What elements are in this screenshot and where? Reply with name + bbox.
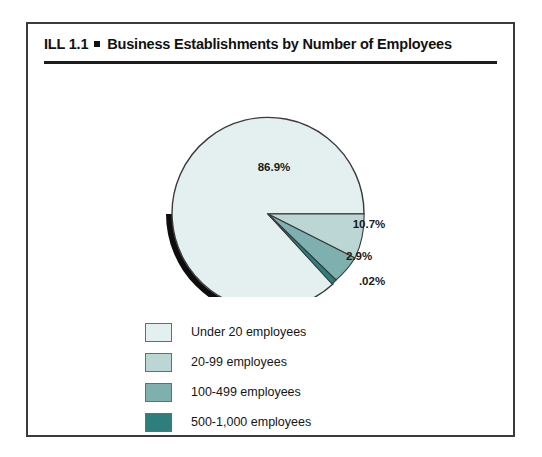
legend-swatch-icon xyxy=(145,353,172,372)
legend-item-100-499[interactable]: 100-499 employees xyxy=(145,379,311,405)
pie-chart: 86.9% 10.7% 2.9% .02% xyxy=(28,72,513,297)
figure-number: ILL 1.1 xyxy=(44,36,88,52)
legend-item-20-99[interactable]: 20-99 employees xyxy=(145,349,311,375)
legend-swatch-icon xyxy=(145,383,172,402)
pie-label-100-499: 2.9% xyxy=(346,250,372,262)
page-title: ILL 1.1Business Establishments by Number… xyxy=(44,34,497,54)
pie-label-20-99: 10.7% xyxy=(353,218,386,230)
legend-item-label: 500-1,000 employees xyxy=(191,415,311,429)
figure-title-block: ILL 1.1Business Establishments by Number… xyxy=(44,34,497,64)
legend-item-label: 20-99 employees xyxy=(191,355,287,369)
pie-chart-svg: 86.9% 10.7% 2.9% .02% xyxy=(28,72,513,297)
legend-item-under-20[interactable]: Under 20 employees xyxy=(145,319,311,345)
legend-item-label: 100-499 employees xyxy=(191,385,301,399)
legend-item-label: Under 20 employees xyxy=(191,325,306,339)
figure-frame: ILL 1.1Business Establishments by Number… xyxy=(26,22,515,437)
chart-legend: Under 20 employees 20-99 employees 100-4… xyxy=(145,319,311,439)
legend-swatch-icon xyxy=(145,323,172,342)
title-divider xyxy=(44,61,497,64)
legend-swatch-icon xyxy=(145,413,172,432)
legend-item-500-1000[interactable]: 500-1,000 employees xyxy=(145,409,311,435)
pie-label-500-1000: .02% xyxy=(359,275,385,287)
square-bullet-icon xyxy=(94,41,100,47)
pie-slices xyxy=(172,117,364,297)
pie-label-under-20: 86.9% xyxy=(258,161,291,173)
figure-title: Business Establishments by Number of Emp… xyxy=(107,36,452,52)
